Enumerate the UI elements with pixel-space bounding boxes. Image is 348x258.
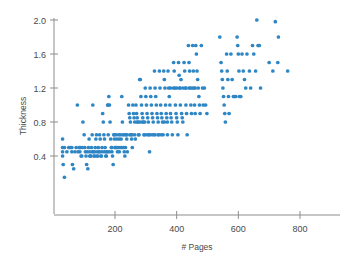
data-point	[177, 61, 181, 65]
data-point	[220, 78, 224, 82]
data-point	[191, 69, 195, 73]
data-point	[125, 150, 129, 154]
data-point	[155, 112, 159, 116]
data-point	[70, 146, 74, 150]
data-point	[94, 137, 98, 141]
data-point	[96, 146, 100, 150]
x-tick-label: 600	[231, 224, 246, 234]
data-point	[144, 95, 148, 99]
data-point	[276, 61, 280, 65]
data-point	[103, 146, 107, 150]
data-point	[203, 86, 207, 90]
data-point	[229, 52, 233, 56]
data-point	[174, 103, 178, 107]
data-point	[193, 103, 197, 107]
data-point	[71, 163, 75, 167]
x-axis-title: # Pages	[181, 242, 212, 252]
data-point	[239, 95, 243, 99]
data-point	[195, 69, 199, 73]
data-point	[179, 78, 183, 82]
data-point	[153, 69, 157, 73]
data-point	[103, 137, 107, 141]
data-point	[245, 52, 249, 56]
data-point	[185, 133, 189, 137]
data-point	[76, 103, 80, 107]
data-point	[162, 78, 166, 82]
data-point	[156, 116, 160, 120]
data-point	[234, 95, 238, 99]
data-point	[218, 35, 222, 39]
data-point	[121, 120, 125, 124]
data-point	[63, 175, 67, 179]
data-point	[115, 146, 119, 150]
data-point	[61, 154, 65, 158]
data-point	[151, 120, 155, 124]
y-tick-label: 0.8	[33, 118, 46, 128]
y-tick-label: 1.6	[33, 50, 46, 60]
data-point	[86, 167, 90, 171]
data-point	[286, 69, 290, 73]
data-point	[166, 133, 170, 137]
data-point	[107, 95, 111, 99]
data-point	[108, 103, 112, 107]
data-point	[143, 86, 147, 90]
data-point	[196, 78, 200, 82]
data-point	[271, 69, 275, 73]
data-point	[197, 95, 201, 99]
data-point	[138, 78, 142, 82]
data-point	[222, 95, 226, 99]
data-point	[225, 52, 229, 56]
data-point	[222, 103, 226, 107]
data-point	[225, 69, 229, 73]
data-point	[87, 137, 91, 141]
data-point	[257, 44, 261, 48]
data-point	[90, 146, 94, 150]
data-point	[205, 112, 209, 116]
data-point	[134, 103, 138, 107]
data-point	[120, 95, 124, 99]
data-point	[98, 133, 102, 137]
data-point	[106, 133, 110, 137]
data-point	[151, 116, 155, 120]
data-point	[85, 163, 89, 167]
data-point	[154, 103, 158, 107]
data-point	[175, 116, 179, 120]
data-point	[139, 95, 143, 99]
data-point	[163, 86, 167, 90]
data-point	[61, 150, 65, 154]
data-point	[119, 137, 123, 141]
data-point	[204, 103, 208, 107]
data-point	[227, 112, 231, 116]
data-point	[127, 103, 131, 107]
data-point	[145, 112, 149, 116]
scatter-plot-figure: 0.40.81.21.62.0 200400600800 Thickness #…	[0, 0, 348, 258]
data-point	[193, 86, 197, 90]
data-point	[130, 146, 134, 150]
data-point	[117, 150, 121, 154]
data-point	[221, 86, 225, 90]
data-point	[184, 103, 188, 107]
data-point	[248, 69, 252, 73]
data-point	[172, 61, 176, 65]
data-point	[84, 154, 88, 158]
data-point	[254, 69, 258, 73]
data-point	[129, 120, 133, 124]
data-point	[101, 120, 105, 124]
data-point	[125, 137, 129, 141]
data-point	[124, 146, 128, 150]
data-point	[174, 112, 178, 116]
data-point	[180, 112, 184, 116]
data-point	[249, 86, 253, 90]
data-point	[150, 103, 154, 107]
data-point	[81, 120, 85, 124]
data-point	[61, 137, 65, 141]
data-point	[169, 112, 173, 116]
data-point	[189, 103, 193, 107]
data-point	[230, 78, 234, 82]
data-point	[194, 44, 198, 48]
data-point	[167, 95, 171, 99]
data-point	[236, 52, 240, 56]
data-point	[162, 69, 166, 73]
data-point	[187, 61, 191, 65]
data-point	[223, 112, 227, 116]
